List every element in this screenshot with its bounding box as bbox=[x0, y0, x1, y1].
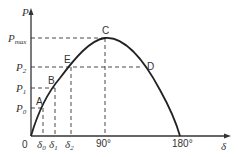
x-tick-labels: δ0 δ1 δ2 90° 180° bbox=[37, 138, 193, 152]
svg-text:δ1: δ1 bbox=[49, 138, 58, 152]
svg-text:180°: 180° bbox=[172, 138, 193, 149]
y-tick-labels: Pmax P2 P1 P0 bbox=[7, 32, 27, 116]
point-labels: A B E C D bbox=[36, 25, 154, 107]
power-angle-diagram: P δ 0 Pmax P2 P1 P0 δ0 δ1 δ2 90° 180° A … bbox=[0, 0, 238, 157]
x-axis-arrow-icon bbox=[224, 134, 231, 139]
guide-lines bbox=[31, 38, 143, 136]
origin-label: 0 bbox=[22, 139, 28, 150]
svg-text:P2: P2 bbox=[15, 61, 27, 75]
y-axis-arrow-icon bbox=[29, 8, 34, 15]
power-curve bbox=[31, 38, 180, 136]
svg-text:90°: 90° bbox=[96, 138, 111, 149]
svg-text:B: B bbox=[48, 75, 55, 86]
svg-text:δ0: δ0 bbox=[37, 138, 46, 152]
svg-text:A: A bbox=[36, 96, 43, 107]
svg-text:P0: P0 bbox=[15, 102, 27, 116]
x-axis-label: δ bbox=[221, 140, 227, 152]
y-axis-label: P bbox=[21, 6, 29, 18]
svg-text:δ2: δ2 bbox=[65, 138, 74, 152]
svg-text:D: D bbox=[147, 61, 154, 72]
svg-text:P1: P1 bbox=[15, 82, 26, 96]
svg-text:E: E bbox=[64, 54, 71, 65]
svg-text:Pmax: Pmax bbox=[7, 32, 27, 46]
svg-text:C: C bbox=[102, 25, 109, 36]
